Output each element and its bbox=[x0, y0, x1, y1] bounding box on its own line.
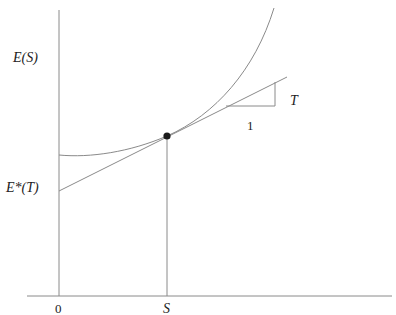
label-run-one: 1 bbox=[247, 118, 254, 133]
label-s: S bbox=[163, 301, 170, 315]
tangency-point bbox=[163, 132, 170, 139]
label-e-star-of-t: E*(T) bbox=[5, 180, 39, 196]
label-origin: 0 bbox=[55, 301, 62, 315]
label-e-of-s: E(S) bbox=[12, 50, 38, 66]
tangent-line bbox=[59, 77, 287, 191]
label-slope-t: T bbox=[290, 93, 299, 108]
convex-tangent-diagram: E(S) E*(T) T 1 0 S bbox=[0, 0, 396, 315]
